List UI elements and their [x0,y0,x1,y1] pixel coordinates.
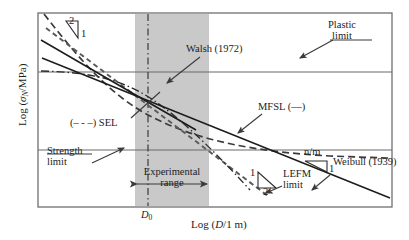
annotation-experimental-range: Experimental range [124,166,220,188]
annotation-plastic-limit-line1: Plastic [328,19,356,30]
annotation-strength-limit-line1: Strength [47,145,83,156]
annotation-strength-limit-line2: limit [47,156,83,167]
d0-axis-label-base: D [141,209,149,220]
d0-axis-label-subscript: 0 [149,213,153,222]
mfsl-leader-arrow [238,114,262,133]
annotation-experimental-range-line2: range [124,177,220,188]
annotation-sel: (– - –) SEL [70,117,118,128]
annotation-plastic-limit: Plastic limit [328,19,356,41]
figure-size-effect-plot: Log (σN/MPa) [0,0,409,240]
annotation-weibull: Weibull (1939) [333,156,397,167]
d0-axis-label: D0 [141,209,152,222]
annotation-lefm-limit-line2: limit [283,179,311,190]
annotation-strength-limit: Strength limit [47,145,83,167]
annotation-walsh: Walsh (1972) [186,43,243,54]
x-axis-label-italic: D [215,218,223,230]
slope-label-lefm-lower-rise: 1 [250,167,255,178]
lefm-leader-arrow [266,186,282,193]
plastic-limit-leader-arrow [300,40,333,58]
annotation-experimental-range-line1: Experimental [124,166,220,177]
slope-label-lefm-upper-rise: 2 [69,15,74,26]
slope-label-lefm-lower-run: 2 [263,186,268,197]
annotation-lefm-limit-line1: LEFM [283,168,311,179]
x-axis-label: Log (D/1 m) [191,219,247,231]
x-axis-label-suffix: /1 m) [223,218,247,230]
slope-label-weibull-rise: n/m [304,146,320,157]
annotation-lefm-limit: LEFM limit [283,168,311,190]
annotation-mfsl: MFSL (––) [258,101,305,112]
x-axis-label-prefix: Log ( [191,218,215,230]
slope-label-lefm-upper-run: 1 [81,28,86,39]
annotation-plastic-limit-line2: limit [328,30,356,41]
weibull-leader-arrow [312,175,330,190]
slope-label-weibull-run: 1 [329,163,334,174]
